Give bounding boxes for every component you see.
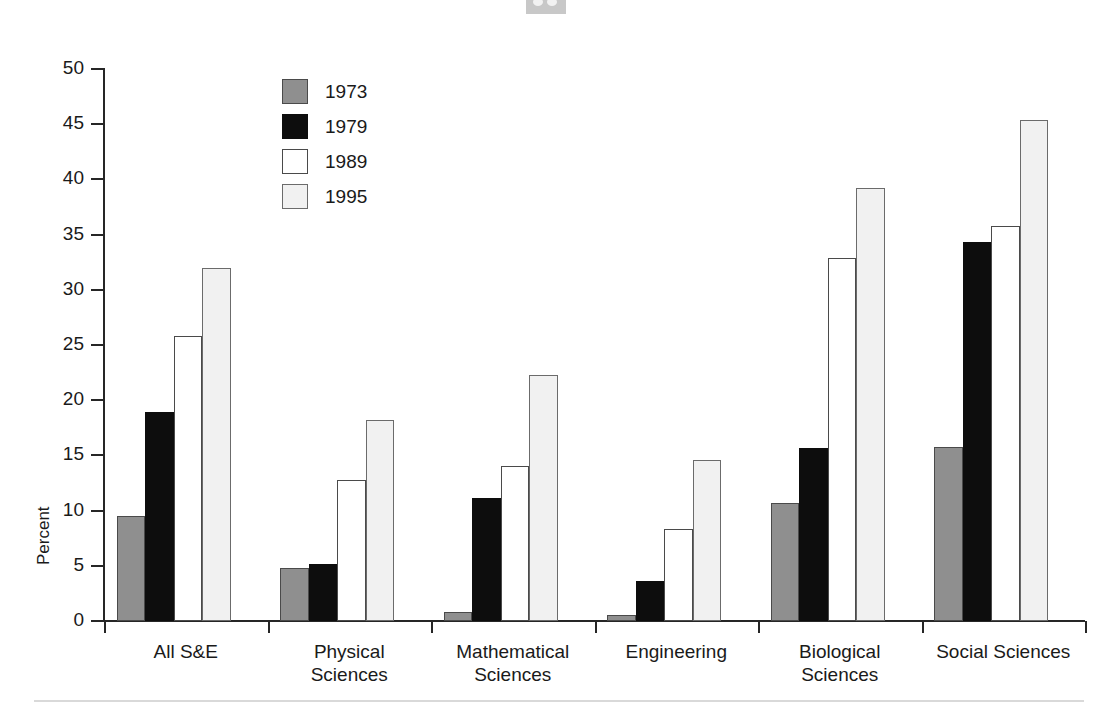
legend-swatch-1973: [282, 79, 308, 104]
category-label: All S&E: [104, 640, 268, 663]
legend-item: 1995: [282, 179, 462, 214]
x-tick: [431, 621, 433, 633]
x-tick: [595, 621, 597, 633]
legend-item: 1979: [282, 109, 462, 144]
legend-label-1989: 1989: [325, 151, 367, 173]
page-canvas: Percent 05101520253035404550 All S&EPhys…: [0, 0, 1102, 712]
y-tick-mark: [91, 565, 104, 567]
y-tick-mark: [91, 510, 104, 512]
bar-1989-5: [991, 226, 1020, 621]
legend-item: 1973: [282, 74, 462, 109]
bar-1973-4: [771, 503, 800, 621]
y-tick-mark: [91, 454, 104, 456]
bar-1973-0: [117, 516, 146, 621]
bar-1995-0: [202, 268, 231, 621]
bar-1995-3: [693, 460, 722, 621]
footer-rule: [34, 700, 1084, 702]
legend-label-1995: 1995: [325, 186, 367, 208]
y-tick-label: 20: [38, 389, 84, 408]
bar-1995-5: [1020, 120, 1049, 621]
y-tick-mark: [91, 344, 104, 346]
legend-label-1979: 1979: [325, 116, 367, 138]
legend-item: 1989: [282, 144, 462, 179]
bar-1995-1: [366, 420, 395, 621]
bar-1989-3: [664, 529, 693, 621]
y-tick-mark: [91, 289, 104, 291]
bar-1979-3: [636, 581, 665, 621]
category-label: Physical Sciences: [268, 640, 432, 686]
bar-1979-0: [145, 412, 174, 621]
category-label: Social Sciences: [922, 640, 1086, 663]
y-tick-label: 30: [38, 279, 84, 298]
y-tick-label: 10: [38, 500, 84, 519]
category-label: Engineering: [595, 640, 759, 663]
bar-1973-1: [280, 568, 309, 621]
legend-swatch-1995: [282, 184, 308, 209]
y-tick-mark: [91, 178, 104, 180]
y-tick-label: 35: [38, 224, 84, 243]
bar-1973-3: [607, 615, 636, 621]
y-tick-mark: [91, 234, 104, 236]
y-tick-label: 15: [38, 444, 84, 463]
x-tick: [104, 621, 106, 633]
bar-1979-5: [963, 242, 992, 621]
y-tick-label: 25: [38, 334, 84, 353]
bar-1973-2: [444, 612, 473, 621]
category-label: Biological Sciences: [758, 640, 922, 686]
bar-1995-2: [529, 375, 558, 621]
bar-1989-4: [828, 258, 857, 621]
chart-legend: 1973 1979 1989 1995: [282, 74, 462, 214]
category-label: Mathematical Sciences: [431, 640, 595, 686]
x-tick: [1085, 621, 1087, 633]
plot-area: [104, 69, 1085, 621]
y-tick-mark: [91, 399, 104, 401]
bar-1989-1: [337, 480, 366, 621]
legend-swatch-1979: [282, 114, 308, 139]
bar-1973-5: [934, 447, 963, 621]
y-tick-label: 5: [38, 555, 84, 574]
y-tick-label: 40: [38, 168, 84, 187]
y-tick-label: 45: [38, 113, 84, 132]
bar-1979-1: [309, 564, 338, 621]
legend-label-1973: 1973: [325, 81, 367, 103]
y-tick-label: 0: [38, 610, 84, 629]
bar-1979-2: [472, 498, 501, 621]
x-tick: [268, 621, 270, 633]
bar-1995-4: [856, 188, 885, 621]
x-tick: [922, 621, 924, 633]
bar-1979-4: [799, 448, 828, 621]
bar-chart: Percent 05101520253035404550 All S&EPhys…: [0, 0, 1102, 700]
legend-swatch-1989: [282, 149, 308, 174]
y-tick-mark: [91, 620, 104, 622]
bar-1989-2: [501, 466, 530, 621]
x-tick: [758, 621, 760, 633]
y-tick-label: 50: [38, 58, 84, 77]
bar-1989-0: [174, 336, 203, 621]
y-tick-mark: [91, 123, 104, 125]
y-tick-mark: [91, 68, 104, 70]
